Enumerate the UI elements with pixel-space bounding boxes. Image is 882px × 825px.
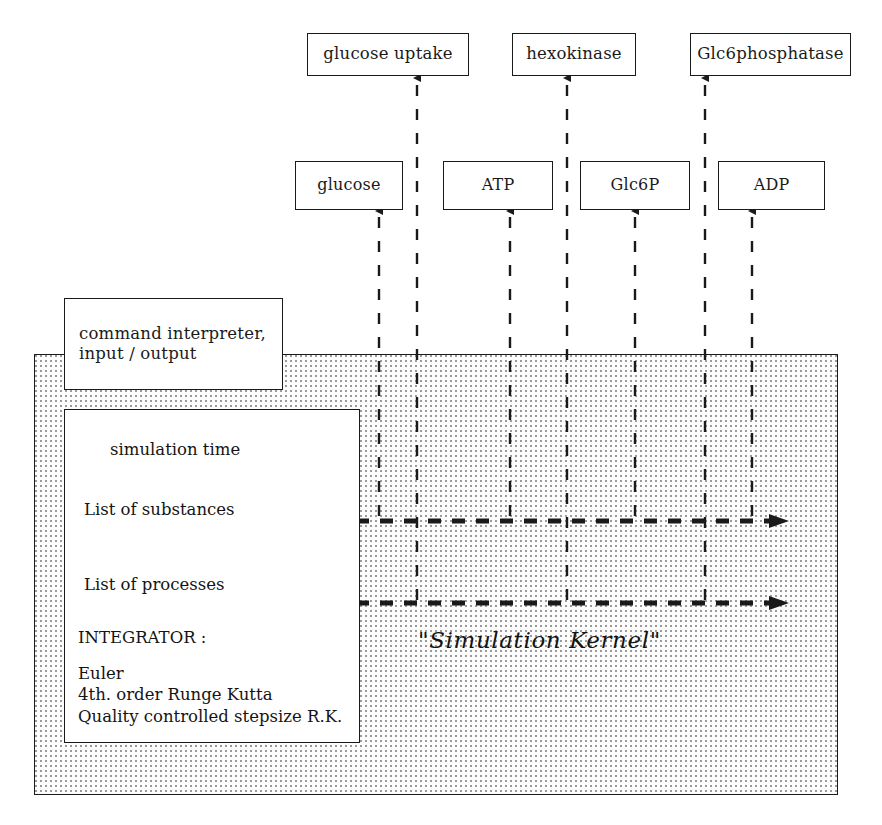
integrator-method: Quality controlled stepsize R.K. bbox=[78, 706, 342, 727]
substance-node-atp[interactable]: ATP bbox=[443, 161, 553, 210]
process-node-glucose-uptake[interactable]: glucose uptake bbox=[307, 33, 469, 76]
node-label: ADP bbox=[754, 176, 790, 194]
substance-node-adp[interactable]: ADP bbox=[718, 161, 825, 210]
integrator-method: 4th. order Runge Kutta bbox=[78, 684, 342, 705]
kernel-label: "Simulation Kernel" bbox=[418, 627, 661, 653]
node-label: hexokinase bbox=[526, 45, 622, 64]
kernel-item-list-of-processes: List of processes bbox=[84, 575, 224, 594]
integrator-method: Euler bbox=[78, 663, 342, 684]
integrator-heading: INTEGRATOR : bbox=[78, 628, 206, 647]
node-label: ATP bbox=[482, 176, 515, 194]
node-label: glucose uptake bbox=[323, 45, 452, 64]
process-node-glc6phosphatase[interactable]: Glc6phosphatase bbox=[690, 33, 851, 76]
command-interpreter-box[interactable]: command interpreter, input / output bbox=[64, 298, 283, 390]
process-node-hexokinase[interactable]: hexokinase bbox=[512, 33, 636, 76]
substance-node-glc6p[interactable]: Glc6P bbox=[580, 161, 690, 210]
node-label: Glc6P bbox=[611, 176, 660, 194]
diagram-canvas: "Simulation Kernel" command interpreter,… bbox=[0, 0, 882, 825]
kernel-item-simulation-time: simulation time bbox=[110, 440, 240, 459]
command-interpreter-line1: command interpreter, bbox=[79, 324, 266, 344]
node-label: Glc6phosphatase bbox=[697, 45, 844, 64]
kernel-item-list-of-substances: List of substances bbox=[84, 500, 235, 519]
integrator-method-list: Euler4th. order Runge KuttaQuality contr… bbox=[78, 663, 342, 727]
node-label: glucose bbox=[317, 176, 380, 194]
substance-node-glucose[interactable]: glucose bbox=[295, 161, 403, 210]
command-interpreter-line2: input / output bbox=[79, 344, 266, 364]
